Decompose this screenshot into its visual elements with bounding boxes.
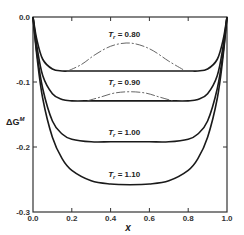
curve-tr-080 <box>33 17 227 71</box>
x-tick-label: 0.6 <box>144 214 156 223</box>
y-axis-title-main: ΔG <box>6 117 19 127</box>
chart-canvas: 0.00.20.40.60.81.00.0-0.1-0.2-0.3 Tr = 0… <box>0 0 244 235</box>
metastable-curve <box>68 43 184 71</box>
y-tick-label: -0.3 <box>16 208 30 217</box>
y-axis-title-sup: M <box>19 116 25 122</box>
x-tick-label: 0.4 <box>105 214 117 223</box>
plot-border <box>33 17 227 212</box>
x-tick-label: 0.2 <box>66 214 78 223</box>
y-tick-label: 0.0 <box>19 13 31 22</box>
y-axis-title: ΔGM <box>6 116 25 127</box>
curve-label: Tr = 1.00 <box>108 128 140 138</box>
metastable-curve <box>87 92 172 101</box>
curve-label: Tr = 0.80 <box>108 30 140 40</box>
curve-label: Tr = 0.90 <box>108 78 140 88</box>
curve-label: Tr = 1.10 <box>108 170 140 180</box>
axis-ticks: 0.00.20.40.60.81.00.0-0.1-0.2-0.3 <box>16 13 233 223</box>
curve-labels: Tr = 0.80Tr = 0.90Tr = 1.00Tr = 1.10 <box>108 30 140 180</box>
curves <box>33 17 227 185</box>
x-axis-title: x <box>124 222 131 233</box>
x-tick-label: 1.0 <box>221 214 233 223</box>
plot-frame <box>33 17 227 212</box>
y-tick-label: -0.1 <box>16 78 30 87</box>
y-tick-label: -0.2 <box>16 143 30 152</box>
x-tick-label: 0.8 <box>183 214 195 223</box>
